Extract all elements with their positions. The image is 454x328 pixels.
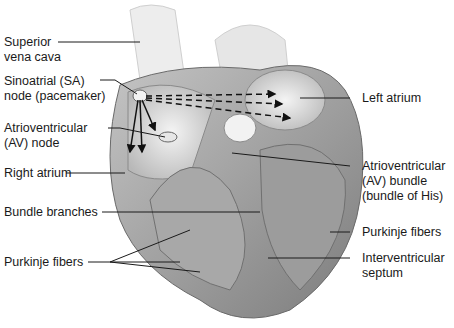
label-left-atrium: Left atrium [362,91,421,106]
label-line: Atrioventricular [4,121,87,136]
label-purkinje-fibers-left: Purkinje fibers [4,255,83,270]
label-line: Purkinje fibers [4,255,83,270]
label-bundle-branches: Bundle branches [4,205,98,220]
label-purkinje-fibers-right: Purkinje fibers [362,225,441,240]
label-superior-vena-cava: Superior vena cava [4,35,61,65]
label-av-node: Atrioventricular (AV) node [4,121,87,151]
label-line: vena cava [4,50,61,65]
label-line: (AV) node [4,136,87,151]
label-line: (AV) bundle [362,174,445,189]
label-line: Superior [4,35,61,50]
label-line: Interventricular [362,251,445,266]
label-line: Sinoatrial (SA) [4,74,105,89]
label-line: Purkinje fibers [362,225,441,240]
label-right-atrium: Right atrium [4,166,71,181]
label-line: Right atrium [4,166,71,181]
label-line: Atrioventricular [362,159,445,174]
label-line: (bundle of His) [362,189,445,204]
label-av-bundle: Atrioventricular (AV) bundle (bundle of … [362,159,445,204]
label-sa-node: Sinoatrial (SA) node (pacemaker) [4,74,105,104]
label-line: node (pacemaker) [4,89,105,104]
label-line: Left atrium [362,91,421,106]
label-line: Bundle branches [4,205,98,220]
label-interventricular-septum: Interventricular septum [362,251,445,281]
label-line: septum [362,266,445,281]
